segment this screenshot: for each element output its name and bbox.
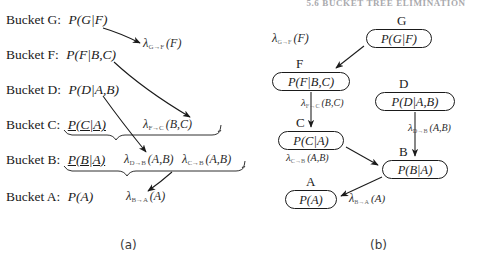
bucket-function-d: P(D|A,B): [69, 82, 120, 97]
message-label-c-to-b: λC→B(A,B): [182, 153, 231, 167]
lambda-args-fc: (B,C): [166, 117, 192, 131]
bucket-label-g: Bucket G:: [6, 12, 61, 27]
node-label-f: F: [296, 57, 303, 70]
edge-lambda-args-fc: (B,C): [322, 97, 344, 108]
edge-lambda-args-ba: (A): [371, 192, 385, 204]
bucket-label-b: Bucket B:: [6, 152, 60, 167]
edge-lambda-args-gf: (F): [294, 31, 309, 45]
bucket-row-c: Bucket C: P(C|A): [6, 116, 106, 134]
node-label-d: D: [399, 77, 408, 90]
bucket-label-a: Bucket A:: [6, 189, 60, 204]
node-label-g: G: [397, 14, 406, 27]
message-label-g-to-f: λG→F(F): [143, 37, 181, 51]
figure-canvas: 5.6 BUCKET TREE ELIMINATION Bucket G: P(…: [0, 0, 487, 263]
lambda-subscript-fc: F→C: [148, 124, 163, 132]
node-g[interactable]: P(G|F): [366, 29, 432, 48]
node-d[interactable]: P(D|A,B): [375, 92, 455, 111]
node-a[interactable]: P(A): [285, 190, 337, 209]
lambda-args-cb: (A,B): [205, 152, 231, 166]
caption-a: (a): [120, 238, 137, 252]
edge-lambda-subscript-gf: G→F: [277, 38, 291, 45]
bucket-label-f: Bucket F:: [6, 47, 59, 62]
bucket-label-c: Bucket C:: [6, 117, 60, 132]
node-b[interactable]: P(B|A): [382, 160, 448, 179]
bucket-function-f: P(F|B,C): [66, 47, 116, 62]
node-label-c: C: [296, 116, 305, 129]
message-label-b-to-a: λB→A(A): [126, 190, 165, 204]
edge-label-b-to-a: λB→A(A): [349, 192, 385, 205]
bucket-function-a: P(A): [68, 189, 93, 204]
message-label-f-to-c: λF→C(B,C): [143, 118, 192, 132]
panel-b: G P(G|F) F P(F|B,C) D P(D|A,B) C P(C|A) …: [244, 0, 487, 263]
node-label-b: B: [399, 145, 408, 158]
lambda-subscript-ba: B→A: [131, 196, 147, 204]
lambda-subscript-db: D→B: [129, 159, 145, 167]
node-c[interactable]: P(C|A): [278, 131, 344, 150]
lambda-subscript-gf: G→F: [148, 43, 164, 51]
edge-label-g-to-f: λG→F(F): [272, 32, 309, 45]
bucket-row-d: Bucket D: P(D|A,B): [6, 81, 119, 99]
edge-label-f-to-c: λF→C(B,C): [301, 97, 343, 109]
caption-b: (b): [370, 238, 387, 252]
bucket-function-b: P(B|A): [68, 152, 105, 167]
lambda-args-ba: (A): [150, 189, 165, 203]
edge-lambda-subscript-db: D→B: [413, 127, 428, 134]
edge-lambda-args-cb: (A,B): [307, 152, 328, 163]
edge-label-d-to-b: λD→B(A,B): [408, 122, 451, 134]
bucket-row-a: Bucket A: P(A): [6, 188, 93, 206]
bucket-label-d: Bucket D:: [6, 82, 61, 97]
panel-a: Bucket G: P(G|F) Bucket F: P(F|B,C) λG→F…: [0, 0, 244, 263]
edge-lambda-subscript-ba: B→A: [354, 198, 369, 205]
bucket-row-g: Bucket G: P(G|F): [6, 11, 107, 29]
bucket-function-c: P(C|A): [68, 117, 106, 132]
bucket-row-f: Bucket F: P(F|B,C): [6, 46, 116, 64]
edge-label-c-to-b: λC→B(A,B): [286, 152, 329, 164]
edge-lambda-subscript-cb: C→B: [291, 157, 305, 164]
lambda-args-gf: (F): [166, 36, 181, 50]
edge-lambda-args-db: (A,B): [430, 122, 451, 133]
lambda-subscript-cb: C→B: [187, 159, 203, 167]
node-f[interactable]: P(F|B,C): [272, 72, 350, 91]
edge-lambda-subscript-fc: F→C: [306, 102, 320, 109]
lambda-args-db: (A,B): [148, 152, 174, 166]
node-label-a: A: [306, 175, 315, 188]
bucket-row-b: Bucket B: P(B|A): [6, 151, 105, 169]
bucket-function-g: P(G|F): [69, 12, 108, 27]
message-label-d-to-b: λD→B(A,B): [124, 153, 174, 167]
